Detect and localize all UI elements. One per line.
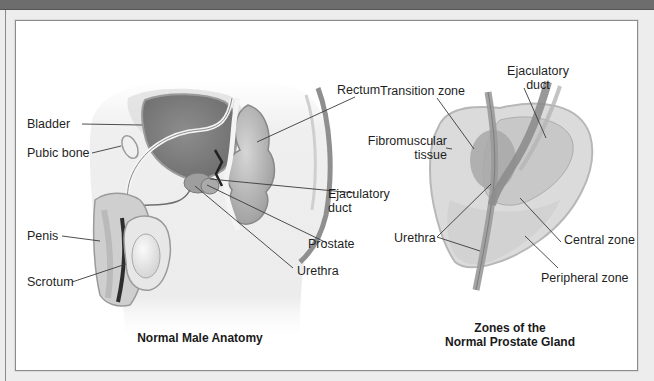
label-rectum: Rectum — [337, 83, 380, 97]
label-ejaculatory-duct-left-line1: Ejaculatory — [328, 187, 390, 201]
label-ejaculatory-duct-right-line2: duct — [493, 78, 583, 92]
label-fibromuscular-line2: tissue — [355, 148, 447, 162]
prostate-zones-drawing — [430, 82, 592, 290]
label-ejaculatory-duct-right-line1: Ejaculatory — [493, 64, 583, 78]
label-penis: Penis — [27, 229, 58, 243]
label-scrotum: Scrotum — [27, 275, 74, 289]
label-pubic-bone: Pubic bone — [27, 146, 90, 160]
male-anatomy-drawing — [90, 79, 331, 335]
label-bladder: Bladder — [27, 117, 70, 131]
label-peripheral-zone: Peripheral zone — [541, 271, 629, 285]
label-urethra-right: Urethra — [394, 231, 436, 245]
caption-normal-male-anatomy: Normal Male Anatomy — [100, 331, 300, 345]
caption-zones-line1: Zones of the — [420, 321, 600, 335]
label-transition-zone: Transition zone — [380, 84, 465, 98]
caption-zones-line2: Normal Prostate Gland — [420, 335, 600, 349]
label-prostate: Prostate — [308, 237, 355, 251]
label-ejaculatory-duct-left-line2: duct — [328, 201, 352, 215]
label-fibromuscular-line1: Fibromuscular — [355, 134, 447, 148]
label-urethra-left: Urethra — [297, 264, 339, 278]
label-central-zone: Central zone — [564, 233, 635, 247]
